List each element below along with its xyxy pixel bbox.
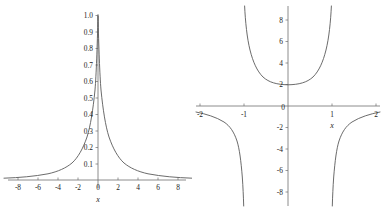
svg-text:0.2: 0.2: [84, 143, 94, 152]
svg-text:1: 1: [330, 110, 334, 119]
right-curve-left-branch: [196, 112, 244, 206]
svg-text:-1: -1: [241, 110, 247, 119]
svg-text:-2: -2: [197, 110, 203, 119]
svg-text:-8: -8: [15, 183, 21, 192]
svg-text:0.9: 0.9: [84, 28, 94, 37]
svg-text:4: 4: [279, 59, 283, 68]
svg-text:0.6: 0.6: [84, 77, 94, 86]
svg-text:-4: -4: [277, 145, 283, 154]
svg-text:6: 6: [156, 183, 160, 192]
svg-text:0.3: 0.3: [84, 127, 94, 136]
left-plot-svg: 0.1 0.2 0.3 0.4 0.5 0.6 0.7 0.8 0.9 1.0 …: [0, 0, 192, 213]
svg-text:0: 0: [281, 103, 285, 112]
svg-text:0.8: 0.8: [84, 44, 94, 53]
svg-text:8: 8: [279, 16, 283, 25]
right-curve-right-branch: [332, 112, 380, 206]
right-plot-svg: 8 6 4 2 -2 -4 -6 -8 -2 -1 0 1 2 x: [192, 0, 384, 213]
svg-text:0.7: 0.7: [84, 61, 94, 70]
svg-text:-2: -2: [277, 123, 283, 132]
svg-text:-2: -2: [75, 183, 81, 192]
svg-text:-6: -6: [35, 183, 41, 192]
svg-text:2: 2: [374, 110, 378, 119]
svg-text:8: 8: [176, 183, 180, 192]
left-x-axis-label: x: [95, 195, 100, 204]
svg-text:0: 0: [96, 183, 100, 192]
svg-text:2: 2: [279, 80, 283, 89]
svg-text:1.0: 1.0: [84, 11, 94, 20]
svg-text:-6: -6: [277, 166, 283, 175]
svg-text:-8: -8: [277, 188, 283, 197]
left-y-tick-labels: 0.1 0.2 0.3 0.4 0.5 0.6 0.7 0.8 0.9 1.0: [84, 11, 94, 169]
figure-container: 0.1 0.2 0.3 0.4 0.5 0.6 0.7 0.8 0.9 1.0 …: [0, 0, 384, 213]
svg-text:6: 6: [279, 37, 283, 46]
svg-text:-4: -4: [55, 183, 61, 192]
svg-text:0.1: 0.1: [84, 160, 94, 169]
svg-text:4: 4: [136, 183, 140, 192]
svg-text:0.4: 0.4: [84, 110, 94, 119]
svg-text:0.5: 0.5: [84, 94, 94, 103]
right-plot-panel: 8 6 4 2 -2 -4 -6 -8 -2 -1 0 1 2 x: [192, 0, 384, 213]
right-x-tick-labels: -2 -1 0 1 2: [197, 103, 378, 119]
left-x-tick-labels: -8 -6 -4 -2 0 2 4 6 8: [15, 183, 180, 192]
left-plot-panel: 0.1 0.2 0.3 0.4 0.5 0.6 0.7 0.8 0.9 1.0 …: [0, 0, 192, 213]
right-x-axis-label: x: [329, 121, 334, 130]
svg-text:2: 2: [116, 183, 120, 192]
